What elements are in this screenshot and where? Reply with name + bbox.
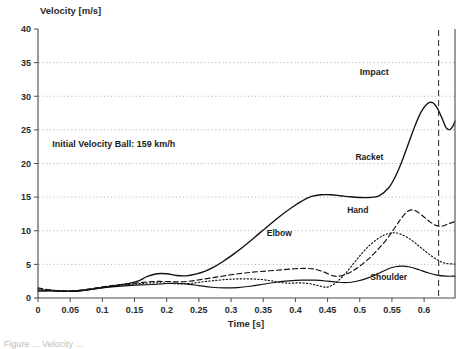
chart-background xyxy=(0,0,469,349)
y-tick-label: 40 xyxy=(21,24,31,34)
x-tick-label: 0.2 xyxy=(160,305,173,315)
y-tick-label: 20 xyxy=(21,159,31,169)
x-tick-label: 0.1 xyxy=(96,305,109,315)
figure-caption: Figure ... Velocity ... xyxy=(4,339,83,349)
series-label-hand: Hand xyxy=(347,205,368,215)
x-tick-label: 0.5 xyxy=(354,305,367,315)
y-tick-label: 25 xyxy=(21,125,31,135)
x-tick-label: 0.35 xyxy=(254,305,272,315)
y-tick-label: 35 xyxy=(21,58,31,68)
series-label-shoulder: Shoulder xyxy=(370,272,408,282)
y-tick-label: 0 xyxy=(26,293,31,303)
series-label-racket: Racket xyxy=(355,152,383,162)
x-tick-label: 0 xyxy=(35,305,40,315)
velocity-time-chart: 0510152025303540 00.050.10.150.20.250.30… xyxy=(0,0,469,349)
y-tick-label: 30 xyxy=(21,92,31,102)
x-tick-label: 0.25 xyxy=(190,305,208,315)
x-tick-label: 0.6 xyxy=(418,305,431,315)
x-tick-label: 0.4 xyxy=(289,305,302,315)
y-tick-label: 15 xyxy=(21,192,31,202)
y-axis-title: Velocity [m/s] xyxy=(40,5,101,16)
x-tick-label: 0.55 xyxy=(383,305,401,315)
y-tick-label: 5 xyxy=(26,260,31,270)
x-tick-label: 0.05 xyxy=(61,305,79,315)
x-tick-label: 0.15 xyxy=(126,305,144,315)
x-axis-title: Time [s] xyxy=(228,318,264,329)
x-tick-label: 0.45 xyxy=(319,305,337,315)
y-tick-label: 10 xyxy=(21,226,31,236)
impact-note: Impact xyxy=(360,67,389,77)
initial-velocity-note: Initial Velocity Ball: 159 km/h xyxy=(52,139,175,149)
series-label-elbow: Elbow xyxy=(267,228,292,238)
x-tick-label: 0.3 xyxy=(225,305,238,315)
